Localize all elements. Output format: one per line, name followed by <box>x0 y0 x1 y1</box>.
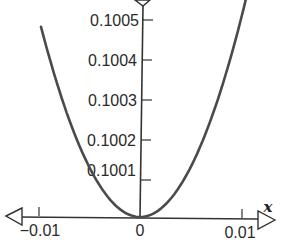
y-tick-label: 0.1004 <box>88 52 137 69</box>
x-tick-label: −0.01 <box>20 222 61 239</box>
parabola-curve <box>41 0 246 217</box>
x-tick-label: 0.01 <box>224 224 255 241</box>
y-axis-top-arrow-icon <box>135 0 150 6</box>
y-tick-label: 0.1005 <box>90 12 139 29</box>
chart: 0.1005 0.1004 0.1003 0.1002 0.1001 −0.01… <box>0 0 283 247</box>
y-axis <box>140 6 143 217</box>
x-tick-label: 0 <box>136 222 145 239</box>
x-axis-label: x <box>263 198 274 216</box>
y-tick-label: 0.1002 <box>87 132 136 149</box>
y-tick-label: 0.1003 <box>88 92 137 109</box>
